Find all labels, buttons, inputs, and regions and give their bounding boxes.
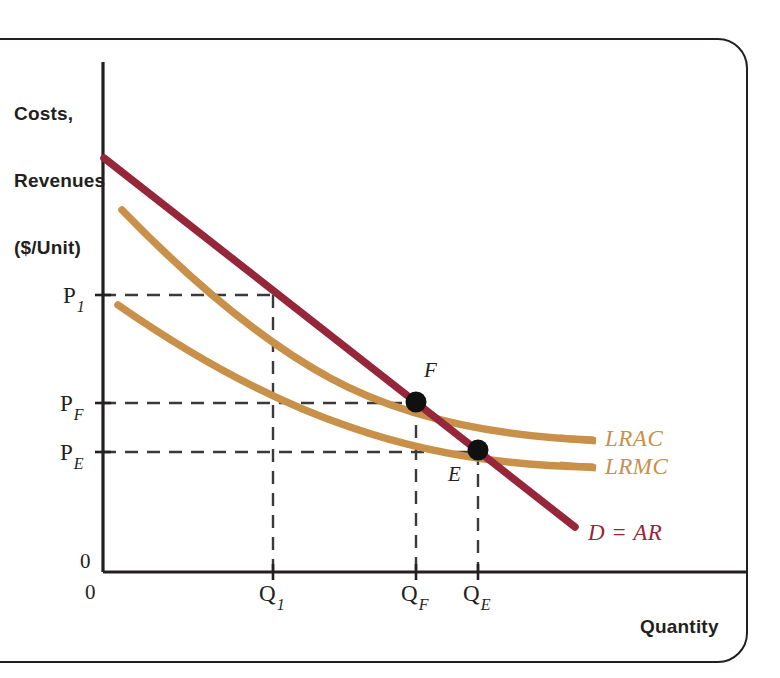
point-label-e: E	[448, 462, 461, 487]
y-axis-title-line-1: Costs,	[14, 103, 105, 125]
x-tick-label-qe: QE	[463, 580, 489, 611]
curve-label-lrmc: LRMC	[605, 453, 668, 480]
x-tick-qe-base: Q	[463, 581, 480, 606]
x-tick-label-q1: Q1	[259, 580, 284, 611]
y-tick-label-pe: PE	[60, 439, 83, 470]
x-tick-q1-subscript: 1	[277, 596, 285, 613]
lrac-curve	[122, 210, 592, 440]
point-label-f: F	[424, 358, 437, 383]
y-tick-p1-base: P	[63, 283, 76, 308]
y-tick-label-pf: PF	[60, 390, 83, 421]
x-tick-qe-subscript: E	[481, 596, 491, 613]
lrac-label-leader	[560, 438, 596, 441]
y-tick-label-p1: P1	[63, 282, 84, 313]
lrmc-label-leader	[560, 465, 596, 468]
x-tick-q1-base: Q	[259, 581, 276, 606]
x-axis-origin-label: 0	[85, 580, 96, 605]
x-tick-label-qf: QF	[401, 580, 427, 611]
y-tick-pe-subscript: E	[74, 455, 84, 472]
y-tick-pf-base: P	[60, 391, 73, 416]
plot-canvas	[0, 0, 780, 678]
x-tick-qf-subscript: F	[419, 596, 429, 613]
y-axis-origin-label: 0	[80, 549, 91, 574]
point-marker-e	[468, 440, 489, 461]
point-marker-f	[406, 392, 427, 413]
y-tick-pf-subscript: F	[74, 406, 84, 423]
y-axis-title-line-2: Revenues	[14, 170, 105, 192]
curve-label-lrac: LRAC	[605, 425, 663, 452]
y-axis-title: Costs, Revenues ($/Unit)	[14, 58, 105, 304]
x-tick-qf-base: Q	[401, 581, 418, 606]
natural-monopoly-diagram: Costs, Revenues ($/Unit) Quantity P1 PF …	[0, 0, 780, 678]
y-axis-title-line-3: ($/Unit)	[14, 237, 105, 259]
y-tick-p1-subscript: 1	[77, 298, 85, 315]
x-axis-title: Quantity	[640, 616, 719, 638]
lrmc-curve	[118, 305, 592, 467]
curve-label-demand: D = AR	[588, 519, 662, 546]
y-tick-pe-base: P	[60, 440, 73, 465]
